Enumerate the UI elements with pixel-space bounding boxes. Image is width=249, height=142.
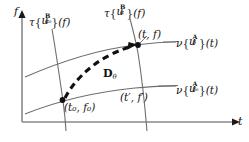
deformation-arrow-group (65, 42, 138, 98)
curve-tau-alpha0 (52, 29, 66, 131)
point-label-tprime-fprime: (t′, f′) (120, 92, 148, 103)
tau-argument: (f) (58, 16, 70, 28)
u-with-scripts: uBα₀ (42, 15, 52, 26)
deformation-operator-symbol: D (103, 67, 113, 80)
subscript-beta: β (192, 39, 196, 45)
tau-curves-group (52, 19, 147, 131)
nu-argument: (t) (206, 37, 218, 49)
u-with-scripts: uBα (117, 6, 127, 17)
brace-open: { (35, 16, 42, 28)
deformation-operator-label: Dθ (103, 68, 117, 79)
tau-argument: (f) (133, 7, 145, 19)
x-axis-label: t (238, 116, 242, 127)
brace-open: { (110, 7, 117, 19)
subscript-alpha0: α₀ (45, 18, 52, 24)
y-axis-label-text: f (14, 5, 18, 18)
figure-container: f t τ{uBα₀}(f) τ{uBα}(f) ν{uAβ}(t) ν{uAβ… (0, 0, 249, 142)
brace-close: } (199, 84, 206, 96)
brace-close: } (199, 37, 206, 49)
nu-curves-group (25, 42, 178, 115)
nu-argument: (t) (206, 84, 218, 96)
curve-label-tau-alpha: τ{uBα}(f) (104, 6, 145, 18)
point-label-t0f0: (t₀, f₀) (64, 102, 95, 113)
curve-nu-beta0 (25, 86, 178, 115)
y-axis-label: f (14, 6, 18, 17)
x-axis-label-text: t (238, 115, 242, 128)
brace-open: { (182, 84, 189, 96)
deformation-operator-subscript: θ (113, 73, 117, 81)
subscript-alpha: α (120, 9, 124, 15)
curve-label-nu-beta0: ν{uAβ₀}(t) (176, 83, 218, 95)
subscript-beta0: β₀ (192, 86, 198, 92)
y-axis-arrowhead (18, 10, 25, 18)
u-with-scripts: uAβ (189, 36, 199, 47)
curve-label-nu-beta: ν{uAβ}(t) (176, 36, 218, 48)
u-with-scripts: uAβ₀ (189, 83, 199, 94)
point-label-tf: (t, f) (138, 29, 161, 40)
brace-open: { (182, 37, 189, 49)
curve-nu-beta (25, 42, 178, 78)
curve-label-tau-alpha0: τ{uBα₀}(f) (29, 15, 70, 27)
